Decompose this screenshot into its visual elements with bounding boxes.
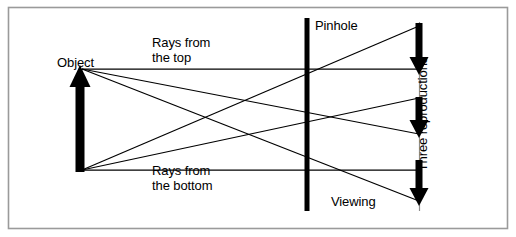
- object-arrow-shaft: [76, 84, 85, 172]
- three-reproductions-label: Three reproductions: [415, 57, 430, 171]
- diagram-canvas: [0, 0, 516, 237]
- viewing-label: Viewing: [331, 194, 376, 209]
- object-label: Object: [57, 55, 94, 70]
- object-arrow: [70, 65, 91, 172]
- pinhole-label: Pinhole: [315, 18, 358, 33]
- top-ray-3: [82, 69, 419, 201]
- bottom-ray-2: [82, 98, 419, 170]
- rays-from-bottom-label: Rays from the bottom: [152, 163, 212, 193]
- rays-from-top-label: Rays from the top: [152, 35, 210, 65]
- top-ray-group: [82, 69, 419, 201]
- reproduction-arrow-1-shaft: [416, 23, 423, 61]
- bottom-ray-3: [82, 26, 419, 170]
- pinhole-camera-diagram: Object Rays from the top Rays from the b…: [0, 0, 516, 237]
- bottom-ray-group: [82, 26, 419, 170]
- reproduction-arrow-3-head: [410, 188, 429, 206]
- pinhole-barrier: [305, 18, 310, 211]
- top-ray-2: [82, 69, 419, 134]
